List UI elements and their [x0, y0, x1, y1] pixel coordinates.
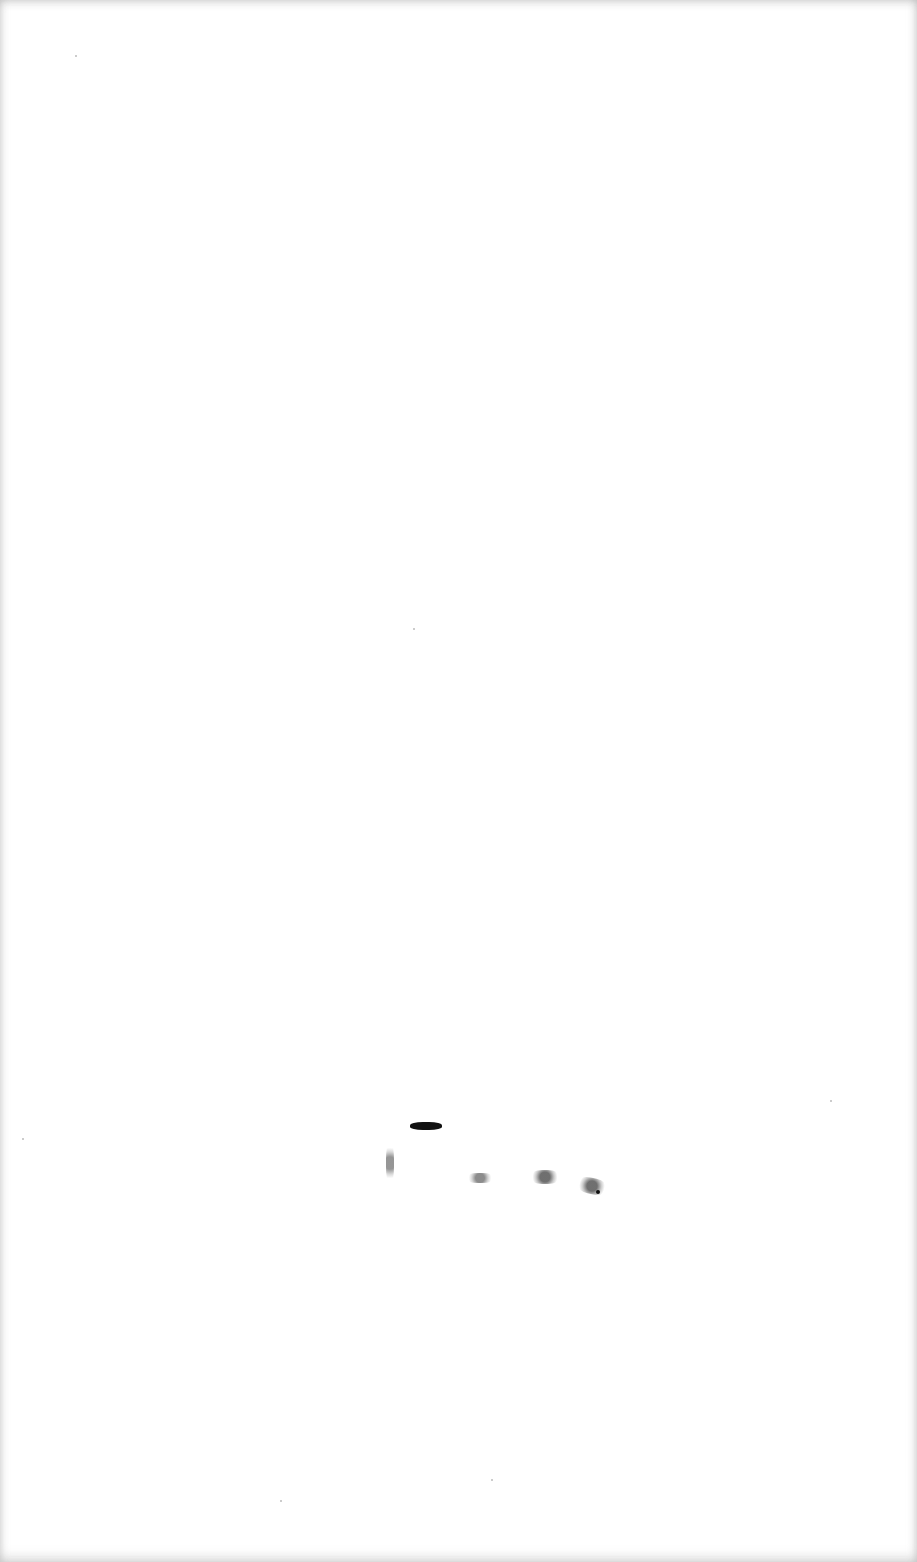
- speckle-mark-3: [576, 1175, 609, 1197]
- dust-dot: [75, 55, 77, 57]
- dust-dot: [491, 1479, 493, 1481]
- speckle-dot: [596, 1190, 600, 1194]
- speckle-mark-vertical: [386, 1143, 394, 1183]
- dust-dot: [413, 628, 415, 630]
- speckle-mark-2: [530, 1170, 560, 1184]
- blank-scanned-page: [0, 0, 917, 1562]
- ink-dash-mark: [410, 1122, 442, 1130]
- speckle-mark-1: [466, 1173, 494, 1183]
- dust-dot: [280, 1500, 282, 1502]
- dust-dot: [830, 1100, 832, 1102]
- dust-dot: [22, 1138, 24, 1140]
